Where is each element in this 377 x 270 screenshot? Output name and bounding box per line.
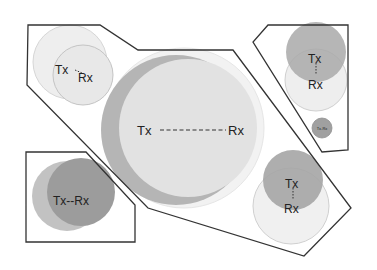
center-tx-label: Tx: [137, 123, 152, 138]
bl-rx-coverage: [47, 158, 115, 226]
tx-rx-coverage-diagram: Tx Rx Tx Rx Tx Rx Tx-Rx Tx--Rx Tx Rx: [0, 0, 377, 270]
center-rx-label: Rx: [228, 123, 244, 138]
br-rx-label: Rx: [284, 202, 299, 216]
top-right-pair: Tx Rx: [285, 22, 347, 111]
top-left-pair: Tx Rx: [33, 25, 113, 105]
tr-rx-label: Rx: [308, 78, 323, 92]
center-pair: Tx Rx: [101, 48, 264, 208]
tr-tx-label: Tx: [308, 52, 321, 66]
br-tx-label: Tx: [285, 177, 298, 191]
tr-small-pair: Tx-Rx: [312, 118, 332, 138]
bl-pair-label: Tx--Rx: [53, 194, 89, 208]
tr-small-label: Tx-Rx: [317, 126, 328, 131]
tl-rx-label: Rx: [78, 71, 93, 85]
tl-tx-label: Tx: [55, 63, 68, 77]
